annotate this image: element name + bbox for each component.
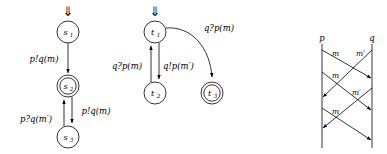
state-s3-circle: [57, 126, 79, 148]
msc-message-4-label: m′: [352, 88, 361, 97]
msc-message-3-label: m: [332, 71, 339, 80]
state-t3-inner-circle: [204, 85, 220, 101]
msc-message-2-label: m′: [356, 49, 365, 58]
msc-message-5-label: m: [332, 107, 339, 116]
state-s2[interactable]: s 2: [57, 75, 79, 97]
msc-message-1-label: m: [332, 49, 339, 58]
state-t1[interactable]: t 1: [144, 21, 166, 43]
lifeline-header-q: q: [369, 33, 375, 43]
state-s1[interactable]: s 1: [57, 21, 79, 43]
state-s1-circle: [57, 21, 79, 43]
state-t2-subscript: 2: [156, 93, 161, 99]
state-t1-circle: [144, 21, 166, 43]
msc-message-4-arrow[interactable]: [323, 88, 372, 128]
state-t1-subscript: 1: [157, 32, 161, 38]
state-t2[interactable]: t 2: [144, 82, 166, 104]
state-t3[interactable]: t 3: [201, 82, 223, 104]
automaton-p: ⇓ s 1 p!q(m) s 2 p!q(m) p?q(m′): [20, 4, 111, 148]
state-s2-inner-circle: [60, 78, 76, 94]
transition-t1-t2-label: q!p(m′): [163, 61, 194, 71]
transition-s1-s2-label: p!q(m): [30, 54, 59, 64]
state-s3-subscript: 3: [70, 137, 74, 143]
figure-container: ⇓ s 1 p!q(m) s 2 p!q(m) p?q(m′): [0, 0, 387, 154]
state-s3-label: s: [63, 133, 67, 142]
automaton-q: ⇓ t 1 q!p(m′) q?p(m) t 2 q?p(m): [112, 4, 234, 104]
transition-s3-s2-label: p?q(m′): [20, 114, 52, 124]
state-s1-label: s: [63, 28, 67, 37]
transition-t2-t1-label: q?p(m): [112, 61, 142, 71]
state-t2-circle: [144, 82, 166, 104]
initial-state-marker-p: ⇓: [63, 4, 74, 19]
transition-s2-s3-label: p!q(m): [82, 106, 111, 116]
state-s1-subscript: 1: [70, 32, 74, 38]
lifeline-header-p: p: [319, 33, 325, 43]
message-sequence-chart: p q m m′ m m′ m: [319, 33, 375, 148]
state-s2-subscript: 2: [69, 86, 74, 92]
state-s2-label: s: [63, 82, 67, 91]
state-t3-subscript: 3: [214, 93, 218, 99]
state-s3[interactable]: s 3: [57, 126, 79, 148]
msc-message-5-arrow[interactable]: [322, 108, 371, 140]
initial-state-marker-q: ⇓: [150, 4, 161, 19]
transition-t1-t3-label: q?p(m): [204, 23, 234, 33]
